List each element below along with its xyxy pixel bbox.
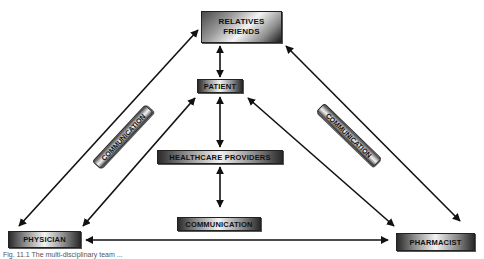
physician-label: PHYSICIAN [23, 235, 66, 244]
healthcare-providers-label: HEALTHCARE PROVIDERS [169, 153, 270, 162]
figure-caption: Fig. 11.1 The multi-disciplinary team ..… [3, 251, 123, 258]
healthcare-providers-node: HEALTHCARE PROVIDERS [157, 150, 283, 164]
relatives-label: RELATIVES [218, 17, 264, 26]
patient-label: PATIENT [204, 82, 236, 91]
patient-node: PATIENT [197, 79, 243, 93]
relatives-friends-node: RELATIVES FRIENDS [201, 11, 282, 43]
pharmacist-label: PHARMACIST [410, 238, 462, 247]
communication-center-label: COMMUNICATION [185, 220, 252, 229]
pharmacist-node: PHARMACIST [396, 233, 475, 251]
communication-center-node: COMMUNICATION [177, 217, 261, 231]
physician-node: PHYSICIAN [8, 231, 81, 248]
friends-label: FRIENDS [223, 27, 260, 36]
